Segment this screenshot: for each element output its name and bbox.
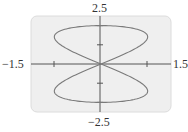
x-max-label: 1.5 bbox=[173, 58, 188, 70]
y-min-label: −2.5 bbox=[88, 116, 110, 128]
x-min-label: −1.5 bbox=[2, 58, 24, 70]
y-max-label: 2.5 bbox=[92, 2, 107, 14]
parametric-plot bbox=[0, 0, 188, 132]
